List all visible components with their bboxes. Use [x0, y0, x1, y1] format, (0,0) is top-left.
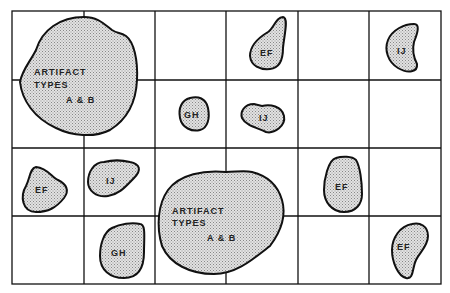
svg-text:EF: EF: [335, 182, 349, 192]
artifact-distribution-diagram: ARTIFACT TYPES A & B EF IJ GH IJ EF IJ A…: [0, 0, 450, 293]
svg-text:ARTIFACT: ARTIFACT: [172, 206, 225, 216]
svg-text:ARTIFACT: ARTIFACT: [34, 67, 87, 77]
svg-text:A & B: A & B: [66, 95, 95, 105]
svg-text:IJ: IJ: [259, 113, 269, 123]
svg-text:GH: GH: [184, 110, 200, 120]
svg-text:GH: GH: [111, 248, 127, 258]
svg-text:EF: EF: [260, 48, 274, 58]
svg-text:TYPES: TYPES: [34, 80, 69, 90]
svg-text:IJ: IJ: [106, 176, 116, 186]
svg-text:A & B: A & B: [207, 233, 236, 243]
svg-text:EF: EF: [397, 242, 411, 252]
cluster-ef-1: [250, 17, 286, 69]
svg-text:IJ: IJ: [397, 46, 407, 56]
svg-text:EF: EF: [35, 185, 49, 195]
svg-text:TYPES: TYPES: [172, 218, 207, 228]
